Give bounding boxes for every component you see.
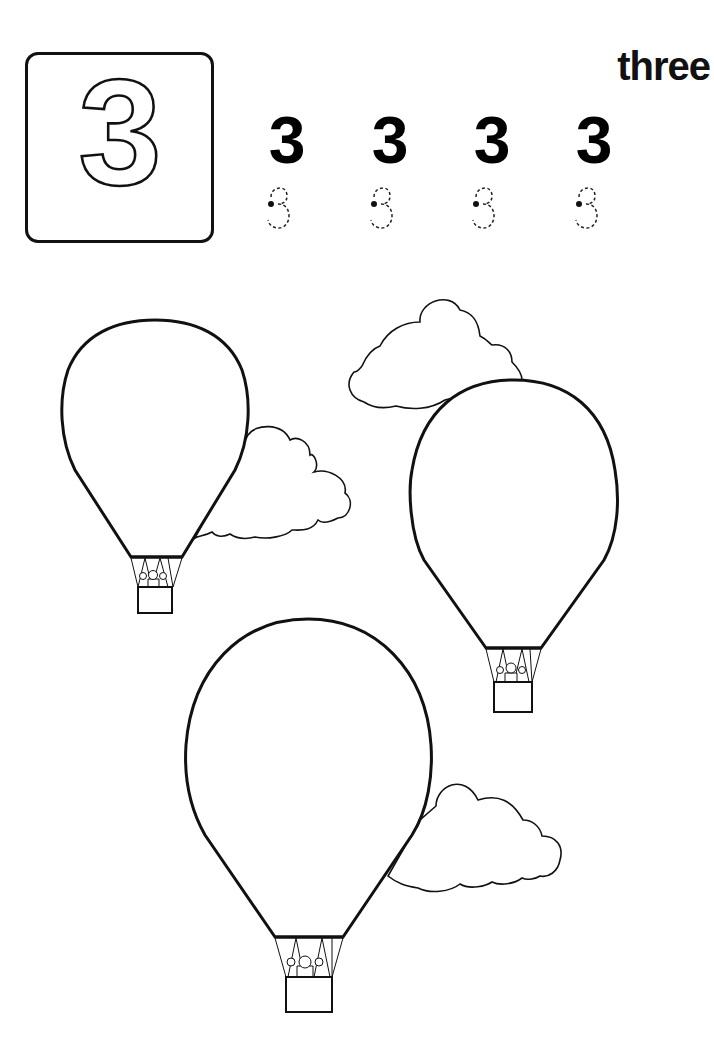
svg-text:3: 3 [78, 48, 161, 216]
practice-digit-3: 3 [462, 100, 522, 180]
number-word: three [560, 44, 710, 89]
balloon-2-basket [494, 682, 532, 712]
start-dot-icon [268, 201, 274, 207]
tracing-digits [268, 188, 597, 228]
balloon-3-envelope [186, 619, 432, 937]
practice-digit-4: 3 [564, 100, 624, 180]
tracing-digit-1 [268, 188, 289, 228]
balloon-1 [62, 320, 248, 613]
start-dot-icon [371, 201, 377, 207]
monkey-passenger-icon [140, 571, 167, 588]
tracing-digit-2 [371, 188, 392, 228]
balloon-3-basket [286, 977, 332, 1012]
balloon-1-basket [138, 587, 172, 613]
tracing-digit-4 [576, 188, 597, 228]
balloon-2-envelope [410, 380, 617, 648]
balloon-3 [186, 619, 432, 1012]
tracing-start-dots [268, 201, 582, 207]
start-dot-icon [576, 201, 582, 207]
balloon-2 [410, 380, 617, 712]
tracing-digit-3 [473, 188, 494, 228]
start-dot-icon [473, 201, 479, 207]
practice-digit-1: 3 [257, 100, 317, 180]
monkey-passenger-icon [497, 663, 526, 682]
practice-digit-2: 3 [360, 100, 420, 180]
outlined-digit-three: 3 [78, 48, 161, 216]
monkey-passenger-icon [287, 956, 323, 977]
